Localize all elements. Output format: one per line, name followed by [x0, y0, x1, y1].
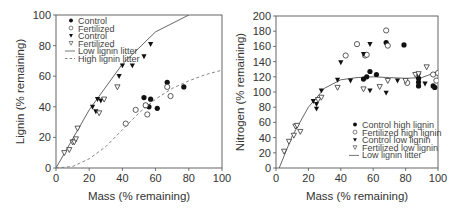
left-x-tick-label: 20 [83, 172, 95, 184]
right-y-tick-label: 80 [259, 101, 271, 113]
right-legend-marker [353, 130, 357, 134]
left-y-tick-label: 40 [39, 101, 51, 113]
left-data-point [75, 126, 80, 131]
right-data-point [319, 88, 324, 93]
right-y-tick-label: 100 [253, 86, 271, 98]
left-data-point [133, 107, 138, 112]
right-y-tick-label: 40 [259, 132, 271, 144]
right-data-point [432, 85, 437, 90]
right-legend-marker [353, 123, 357, 127]
left-data-point [62, 151, 67, 156]
right-data-point [348, 79, 353, 84]
right-y-tick-label: 200 [253, 10, 271, 22]
right-data-point [314, 107, 319, 112]
left-y-tick-label: 60 [39, 70, 51, 82]
right-data-point [298, 129, 303, 134]
right-x-tick-label: 0 [273, 172, 279, 184]
right-y-tick-label: 20 [259, 147, 271, 159]
left-x-tick-label: 80 [183, 172, 195, 184]
left-data-point [155, 106, 160, 111]
right-y-tick-label: 180 [253, 25, 271, 37]
right-data-point [401, 42, 406, 47]
left-data-point [145, 112, 150, 117]
right-data-point [395, 79, 400, 84]
right-y-tick-label: 120 [253, 71, 271, 83]
left-x-tick-label: 60 [149, 172, 161, 184]
right-data-point [374, 72, 379, 77]
right-data-point [431, 72, 436, 77]
nitrogen-plot: 020406080100020406080100120140160180200M… [234, 10, 447, 202]
left-legend-marker [69, 41, 73, 45]
left-data-point [141, 95, 146, 100]
right-data-point [354, 42, 359, 47]
right-y-tick-label: 160 [253, 40, 271, 52]
left-data-point [143, 103, 148, 108]
left-data-point [130, 63, 135, 68]
right-y-tick-label: 60 [259, 116, 271, 128]
right-y-tick-label: 0 [265, 162, 271, 174]
right-x-tick-label: 20 [302, 172, 314, 184]
left-y-tick-label: 20 [39, 131, 51, 143]
right-data-point [424, 65, 429, 70]
left-data-point [115, 85, 120, 90]
lignin-plot: 020406080100020406080100Mass (% remainin… [14, 9, 231, 202]
left-x-axis-label: Mass (% remaining) [88, 190, 190, 202]
right-data-point [367, 42, 372, 47]
left-y-axis-label: Lignin (% remaining) [14, 39, 26, 145]
left-legend-marker [69, 34, 73, 38]
right-data-point [367, 69, 372, 74]
right-data-point [364, 74, 369, 79]
right-data-point [422, 82, 427, 87]
left-x-tick-label: 40 [116, 172, 128, 184]
left-data-point [123, 121, 128, 126]
left-data-point [148, 42, 153, 47]
left-y-tick-label: 80 [39, 40, 51, 52]
left-legend: ControlFertilizedControlFertilizedLow li… [65, 16, 140, 64]
right-data-point [435, 70, 440, 75]
right-data-point [343, 53, 348, 58]
left-y-tick-label: 100 [33, 9, 51, 21]
right-data-point [338, 60, 343, 65]
right-data-point [335, 85, 340, 90]
right-data-point [385, 79, 390, 84]
right-x-axis-label: Mass (% remaining) [306, 190, 408, 202]
right-legend-marker [353, 146, 357, 150]
left-legend-label: High lignin litter [78, 54, 140, 64]
left-high-lignin-litter-curve [56, 70, 222, 168]
left-low-lignin-litter-curve [56, 15, 189, 168]
right-x-tick-label: 100 [429, 172, 447, 184]
right-data-point [377, 85, 382, 90]
right-data-point [367, 88, 372, 93]
left-data-point [116, 74, 121, 79]
right-data-point [385, 43, 390, 48]
left-data-point [148, 97, 153, 102]
right-data-point [416, 83, 421, 88]
left-legend-marker [69, 19, 73, 23]
right-x-tick-label: 60 [367, 172, 379, 184]
right-x-tick-label: 80 [399, 172, 411, 184]
left-data-point [97, 111, 102, 116]
right-data-point [384, 91, 389, 96]
left-data-point [181, 84, 186, 89]
right-y-axis-label: Nitrogen (% remaining) [234, 33, 246, 151]
right-legend: Control high ligninFertilized high ligni… [349, 120, 442, 160]
left-x-tick-label: 0 [53, 172, 59, 184]
right-data-point [361, 87, 366, 92]
left-data-point [67, 148, 72, 153]
left-x-tick-label: 100 [213, 172, 231, 184]
figure: 020406080100020406080100Mass (% remainin… [0, 0, 465, 213]
right-data-point [384, 28, 389, 33]
left-legend-marker [69, 26, 73, 30]
right-data-point [286, 139, 291, 144]
left-data-point [165, 84, 170, 89]
left-data-point [168, 93, 173, 98]
right-y-tick-label: 140 [253, 56, 271, 68]
right-x-tick-label: 40 [335, 172, 347, 184]
right-legend-marker [353, 138, 357, 142]
left-y-tick-label: 0 [45, 162, 51, 174]
right-legend-label: Low lignin litter [362, 150, 422, 160]
left-data-point [141, 54, 146, 59]
